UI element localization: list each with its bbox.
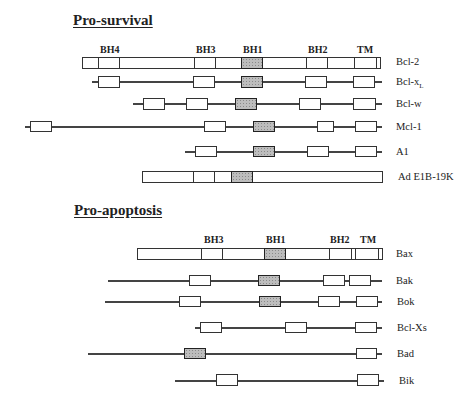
divider	[119, 57, 120, 69]
bak-label: Bak	[396, 275, 413, 286]
tm-header: TM	[360, 234, 376, 245]
bclw-label: Bcl-w	[396, 98, 422, 109]
mcl1-bh3-domain	[204, 121, 226, 132]
bclw-bh4-domain	[143, 98, 165, 110]
bh2-header: BH2	[308, 44, 327, 55]
mcl1-bh2-domain	[317, 121, 334, 132]
a1-bh2-domain	[307, 146, 329, 157]
bclxs-bh3-domain	[285, 322, 307, 333]
bclxl-line	[92, 81, 382, 83]
divider	[194, 57, 195, 69]
bak-bh2-domain	[323, 275, 345, 286]
a1-label: A1	[396, 146, 409, 157]
bclxl-tm-domain	[353, 76, 375, 88]
bclxl-bh2-domain	[305, 76, 327, 88]
bax-label: Bax	[396, 248, 413, 259]
mcl1-label: Mcl-1	[396, 121, 422, 132]
divider	[351, 248, 352, 260]
pro-survival-title: Pro-survival	[73, 12, 153, 29]
a1-bh3-domain	[195, 146, 217, 157]
mcl1-n-domain	[30, 121, 52, 132]
bik-bh3-domain	[216, 374, 238, 386]
divider	[201, 248, 202, 260]
bok-tm-domain	[356, 296, 378, 307]
divider	[98, 57, 99, 69]
tm-header: TM	[357, 44, 373, 55]
bok-bh1-domain	[259, 296, 281, 307]
divider	[376, 57, 377, 69]
bh3-header: BH3	[196, 44, 215, 55]
bak-bh3-domain	[189, 275, 211, 286]
ade1b-bar	[142, 171, 383, 183]
bh3-header: BH3	[204, 234, 223, 245]
bak-bh1-domain	[258, 275, 280, 286]
divider	[354, 57, 355, 69]
bclxl-bh1-domain	[241, 76, 263, 88]
bax-bar	[137, 248, 383, 260]
mcl1-bh1-domain	[253, 121, 275, 132]
divider	[355, 248, 356, 260]
bclw-bh2-domain	[299, 98, 321, 110]
bok-bh2-domain	[318, 296, 340, 307]
bclw-line	[133, 103, 382, 105]
bad-bh3-domain	[184, 348, 206, 359]
a1-bh1-domain	[253, 146, 275, 157]
bad-tm-domain	[356, 348, 377, 359]
bik-label: Bik	[399, 375, 414, 386]
bclw-tm-domain	[353, 98, 376, 110]
bax-bh1-domain	[264, 248, 286, 260]
bclw-bh1-domain	[235, 98, 257, 110]
bok-label: Bok	[397, 296, 415, 307]
bclw-bh3-domain	[186, 98, 208, 110]
mcl1-tm-domain	[355, 121, 377, 132]
bad-line	[88, 353, 382, 355]
bik-line	[175, 380, 384, 382]
bclxs-tm-domain	[355, 322, 377, 333]
bik-tm-domain	[357, 374, 379, 386]
ade1b-bh1-domain	[231, 171, 253, 183]
bclxl-label-sub: L	[419, 82, 423, 90]
bclxl-label: Bcl-xL	[396, 76, 424, 90]
divider	[378, 248, 379, 260]
pro-apoptosis-title: Pro-apoptosis	[74, 202, 162, 219]
ade1b-bh3-domain	[193, 171, 215, 183]
bak-tm-domain	[349, 275, 371, 286]
bclxl-bh4-domain	[98, 76, 120, 88]
bok-line	[105, 301, 382, 303]
bclxs-label: Bcl-Xs	[397, 322, 427, 333]
divider	[222, 248, 223, 260]
bclxl-label-main: Bcl-x	[396, 76, 419, 87]
divider	[306, 57, 307, 69]
bcl2-label: Bcl-2	[396, 56, 419, 67]
bh2-header: BH2	[330, 234, 349, 245]
bh1-header: BH1	[243, 44, 262, 55]
divider	[329, 248, 330, 260]
bad-label: Bad	[397, 348, 414, 359]
bclxs-bh4-domain	[200, 322, 222, 333]
bh1-header: BH1	[266, 234, 285, 245]
ade1b-label: Ad E1B-19K	[398, 171, 454, 182]
bcl2-bar	[82, 57, 381, 69]
divider	[215, 57, 216, 69]
bh4-header: BH4	[100, 44, 119, 55]
bok-bh3-domain	[179, 296, 201, 307]
bcl2-bh1-domain	[241, 57, 263, 69]
a1-tm-domain	[355, 146, 377, 157]
bclxl-bh3-domain	[193, 76, 215, 88]
divider	[327, 57, 328, 69]
